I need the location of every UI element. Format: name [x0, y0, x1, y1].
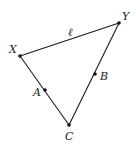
point-c [67, 123, 71, 127]
label-line-l: ℓ [68, 26, 73, 39]
label-c: C [65, 130, 74, 143]
point-a [43, 88, 47, 92]
triangle-diagram: X Y C A B ℓ [0, 0, 136, 145]
label-x: X [8, 43, 18, 56]
point-x [18, 54, 22, 58]
label-a: A [32, 86, 41, 99]
point-y [117, 21, 121, 25]
label-b: B [99, 70, 108, 83]
label-y: Y [122, 10, 131, 23]
point-b [93, 72, 97, 76]
